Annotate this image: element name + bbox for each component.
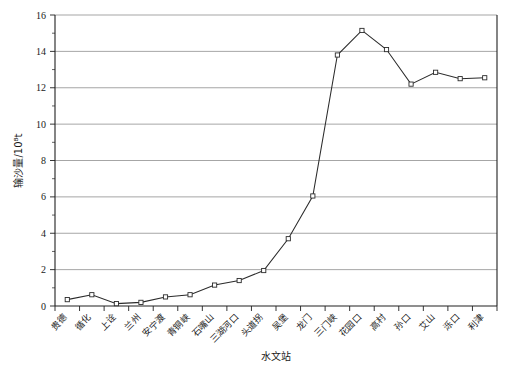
x-category-label: 泺口 bbox=[441, 312, 462, 333]
data-point-marker bbox=[434, 70, 438, 74]
data-point-marker bbox=[139, 300, 143, 304]
data-point-marker bbox=[458, 77, 462, 81]
y-axis-title-rot: 输沙量/10⁸t bbox=[12, 133, 24, 187]
data-point-marker bbox=[262, 268, 266, 272]
y-tick-label: 4 bbox=[41, 228, 46, 239]
y-tick-label: 2 bbox=[41, 264, 46, 275]
x-category-label: 安宁渡 bbox=[140, 312, 167, 339]
chart-figure: 0246810121416 贵德循化上诠兰州安宁渡青铜峡石嘴山三湖河口头道拐吴堡… bbox=[0, 0, 517, 368]
x-category-label: 贵德 bbox=[48, 312, 69, 333]
x-category-label: 艾山 bbox=[417, 312, 437, 332]
x-category-label: 头道拐 bbox=[238, 312, 265, 339]
x-category-label: 花园口 bbox=[336, 312, 363, 339]
data-point-marker bbox=[409, 82, 413, 86]
y-axis-tick-labels: 0246810121416 bbox=[36, 10, 46, 312]
data-point-marker bbox=[114, 302, 118, 306]
data-point-marker bbox=[65, 298, 69, 302]
data-point-marker bbox=[90, 293, 94, 297]
gridlines bbox=[55, 15, 497, 270]
x-category-label: 孙口 bbox=[392, 312, 413, 333]
data-point-marker bbox=[311, 194, 315, 198]
x-category-label: 兰州 bbox=[122, 312, 143, 333]
data-point-marker bbox=[188, 293, 192, 297]
y-tick-label: 14 bbox=[36, 46, 46, 57]
y-tick-label: 8 bbox=[41, 155, 46, 166]
data-point-marker bbox=[213, 283, 217, 287]
y-tick-label: 12 bbox=[36, 82, 46, 93]
data-point-marker bbox=[335, 53, 339, 57]
y-tick-label: 10 bbox=[36, 119, 46, 130]
y-tick-label: 0 bbox=[41, 301, 46, 312]
y-axis-title-text: 输沙量/10⁸t bbox=[12, 133, 24, 187]
data-point-marker bbox=[163, 295, 167, 299]
x-category-label: 三门峡 bbox=[312, 312, 339, 339]
x-axis-category-labels: 贵德循化上诠兰州安宁渡青铜峡石嘴山三湖河口头道拐吴堡龙门三门峡花园口高村孙口艾山… bbox=[48, 312, 486, 345]
x-axis-ticks bbox=[55, 306, 497, 311]
x-category-label: 高村 bbox=[367, 312, 388, 333]
y-axis-title: 输沙量/10⁸t bbox=[12, 133, 24, 187]
x-category-label: 循化 bbox=[73, 312, 94, 333]
data-point-marker bbox=[483, 76, 487, 80]
y-tick-label: 6 bbox=[41, 191, 46, 202]
data-series-line bbox=[67, 30, 484, 303]
x-category-label: 青铜峡 bbox=[165, 312, 192, 339]
data-point-marker bbox=[286, 237, 290, 241]
y-tick-label: 16 bbox=[36, 10, 46, 21]
y-axis-major-ticks bbox=[50, 15, 55, 306]
data-point-marker bbox=[384, 47, 388, 51]
x-category-label: 上诠 bbox=[97, 312, 118, 333]
x-category-label: 利津 bbox=[466, 312, 487, 333]
line-chart: 0246810121416 贵德循化上诠兰州安宁渡青铜峡石嘴山三湖河口头道拐吴堡… bbox=[0, 0, 517, 368]
data-point-marker bbox=[360, 28, 364, 32]
data-point-markers bbox=[65, 28, 487, 305]
data-point-marker bbox=[237, 278, 241, 282]
x-category-label: 吴堡 bbox=[269, 312, 290, 333]
x-axis-title-text: 水文站 bbox=[261, 350, 291, 362]
x-category-label: 龙门 bbox=[294, 312, 315, 333]
